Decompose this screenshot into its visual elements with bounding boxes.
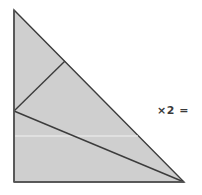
triangle-diagram xyxy=(0,0,202,195)
right-triangle xyxy=(14,10,184,182)
multiplier-label: ×2 = xyxy=(157,104,189,117)
